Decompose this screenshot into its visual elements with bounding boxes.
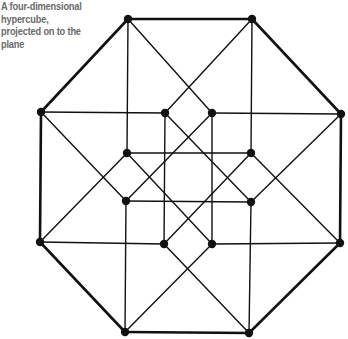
edge-B-a <box>165 19 252 113</box>
edge-C-D <box>340 114 341 243</box>
vertex-g <box>122 197 130 205</box>
edge-c-f <box>164 153 251 244</box>
hypercube-diagram <box>0 0 348 339</box>
vertex-a <box>161 109 169 117</box>
vertex-H <box>37 108 45 116</box>
vertex-A <box>124 15 132 23</box>
thick-edges <box>40 19 341 333</box>
edge-A-h <box>127 19 128 153</box>
edge-b-g <box>126 113 212 201</box>
edge-H-a <box>41 112 165 113</box>
edge-E-d <box>249 202 251 333</box>
edge-g-d <box>126 201 251 202</box>
edge-D-c <box>251 153 340 243</box>
vertex-f <box>160 240 168 248</box>
vertex-B <box>248 15 256 23</box>
vertex-d <box>247 198 255 206</box>
edge-C-d <box>251 114 341 202</box>
vertex-C <box>337 110 345 118</box>
edge-a-f <box>164 113 165 244</box>
edge-G-H <box>40 112 41 242</box>
edge-A-b <box>128 19 212 113</box>
vertex-e <box>208 240 216 248</box>
edge-H-A <box>41 19 128 112</box>
edge-H-g <box>41 112 126 201</box>
edge-h-e <box>127 153 212 244</box>
edge-B-C <box>252 19 341 114</box>
edge-F-e <box>125 244 212 332</box>
vertex-h <box>123 149 131 157</box>
vertex-F <box>121 328 129 336</box>
edge-E-f <box>164 244 249 333</box>
edge-E-F <box>125 332 249 333</box>
edge-D-e <box>212 243 340 244</box>
vertex-b <box>208 109 216 117</box>
vertex-G <box>36 238 44 246</box>
edge-a-d <box>165 113 251 202</box>
edge-G-f <box>40 242 164 244</box>
edge-C-b <box>212 113 341 114</box>
vertex-c <box>247 149 255 157</box>
vertex-D <box>336 239 344 247</box>
vertex-E <box>245 329 253 337</box>
edge-F-g <box>125 201 126 332</box>
edge-G-h <box>40 153 127 242</box>
vertices <box>36 15 345 337</box>
edge-B-c <box>251 19 252 153</box>
edge-D-E <box>249 243 340 333</box>
edge-F-G <box>40 242 125 332</box>
